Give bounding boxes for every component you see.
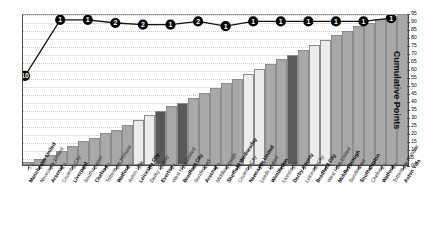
marker-label: 1 [86, 16, 90, 23]
y-tick-label: 70 [411, 51, 417, 56]
line-marker: 1 [55, 15, 65, 25]
line-marker: 1 [303, 16, 313, 26]
y-tick-label: 60 [411, 67, 417, 72]
x-name-cell: Newcastle United [33, 181, 44, 247]
x-name-cell: Tottenham Hotspur [386, 181, 397, 247]
marker-label: 2 [196, 18, 200, 25]
x-name-cell: West Ham United [165, 181, 176, 247]
x-name-cell: Coventry City [232, 181, 243, 247]
line-marker: 2 [193, 16, 203, 26]
x-name-cell: Southampton [353, 181, 364, 247]
x-name-cell: Derby County [287, 181, 298, 247]
y-tick-mark [407, 54, 410, 55]
x-name-cell: Derby County [143, 181, 154, 247]
y-axis-title: Cumulative Points [390, 14, 404, 166]
y-tick-mark [407, 14, 410, 15]
line-marker: 1 [83, 15, 93, 25]
x-axis-category-labels: Manchester UnitedNewcastle UnitedArsenal… [22, 181, 408, 247]
line-marker: 1 [221, 21, 231, 31]
y-tick-label: 45 [411, 91, 417, 96]
x-name-cell: Arsenal [44, 181, 55, 247]
x-name-cell: Liverpool [276, 181, 287, 247]
y-tick-label: 30 [411, 115, 417, 120]
y-tick-label: 90 [411, 19, 417, 24]
y-tick-mark [407, 102, 410, 103]
y-tick-mark [407, 70, 410, 71]
y-tick-mark [407, 62, 410, 63]
line-marker: 2 [138, 20, 148, 30]
x-name-cell: Arsenal [199, 181, 210, 247]
line-path [25, 18, 391, 76]
x-name-cell: Liverpool [66, 181, 77, 247]
marker-label: 2 [141, 21, 145, 28]
x-name-cell: Southampton [77, 181, 88, 247]
x-name-cell: Aston Villa [397, 181, 408, 247]
y-tick-label: 95 [411, 11, 417, 16]
x-name-cell: Chelsea [364, 181, 375, 247]
line-marker: 1 [248, 16, 258, 26]
marker-label: 10 [22, 72, 29, 79]
y-tick-label: 75 [411, 43, 417, 48]
marker-label: 1 [334, 18, 338, 25]
y-tick-mark [407, 142, 410, 143]
x-name-cell: Watford [110, 181, 121, 247]
y-tick-label: 20 [411, 131, 417, 136]
y-tick-mark [407, 78, 410, 79]
x-name-cell: Manchester United [22, 181, 33, 247]
y-tick-mark [407, 126, 410, 127]
x-name-cell: Wimbledon [265, 181, 276, 247]
marker-label: 1 [251, 18, 255, 25]
y-tick-label: 25 [411, 123, 417, 128]
marker-label: 1 [279, 18, 283, 25]
x-name-cell: Tottenham Hotspur [99, 181, 110, 247]
x-name-cell: West Ham United [320, 181, 331, 247]
marker-label: 1 [306, 18, 310, 25]
y-tick-mark [407, 86, 410, 87]
line-marker: 2 [110, 18, 120, 28]
x-name-cell: Bradford City [309, 181, 320, 247]
line-marker: 10 [22, 71, 30, 81]
x-name-cell: Newcastle United [243, 181, 254, 247]
line-marker: 1 [358, 16, 368, 26]
x-name-cell: Bradford City [176, 181, 187, 247]
y-tick-label: 55 [411, 75, 417, 80]
y-tick-label: 65 [411, 59, 417, 64]
x-name-cell: Leicester City [132, 181, 143, 247]
x-name-cell: Chelsea [88, 181, 99, 247]
line-marker: 1 [165, 20, 175, 30]
y-tick-mark [407, 118, 410, 119]
x-name-cell: Sunderland [342, 181, 353, 247]
y-tick-mark [407, 94, 410, 95]
y-tick-mark [407, 22, 410, 23]
x-name-cell: Aston Villa [121, 181, 132, 247]
x-name-cell: Sheffield Wednesday [221, 181, 232, 247]
y-tick-mark [407, 134, 410, 135]
y-tick-mark [407, 110, 410, 111]
x-name-cell: Watford [375, 181, 386, 247]
line-series: 101122121111111 [23, 15, 408, 166]
marker-label: 1 [362, 18, 366, 25]
x-name-cell: Leeds United [254, 181, 265, 247]
y-tick-mark [407, 30, 410, 31]
marker-label: 1 [58, 16, 62, 23]
y-tick-mark [407, 46, 410, 47]
x-name-cell: Everton [154, 181, 165, 247]
plot-area: 101122121111111 [22, 14, 408, 166]
y-tick-label: 35 [411, 107, 417, 112]
y-tick-label: 40 [411, 99, 417, 104]
marker-label: 1 [224, 23, 228, 30]
line-marker: 1 [331, 16, 341, 26]
y-tick-label: 80 [411, 35, 417, 40]
y-tick-label: 50 [411, 83, 417, 88]
pareto-chart: 101122121111111 959085807570656055504540… [0, 0, 434, 248]
x-name-cell: Sunderland [187, 181, 198, 247]
marker-label: 2 [113, 19, 117, 26]
line-marker: 1 [276, 16, 286, 26]
y-tick-label: 85 [411, 27, 417, 32]
y-tick-mark [407, 38, 410, 39]
marker-label: 1 [169, 21, 173, 28]
x-name-cell: Middlesbrough [331, 181, 342, 247]
x-name-cell: Coventry City [55, 181, 66, 247]
x-name-cell: Leicester City [298, 181, 309, 247]
x-name-cell: Middlesbrough [210, 181, 221, 247]
